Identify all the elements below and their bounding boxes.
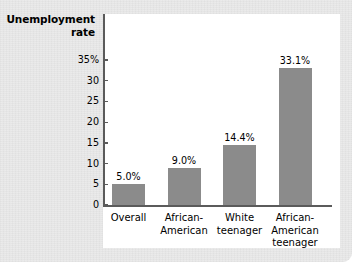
x-axis-category-label-line: Overall: [101, 212, 156, 225]
x-axis-line: [103, 205, 332, 207]
y-axis-title: Unemployment rate: [2, 13, 95, 38]
x-axis-category-label-line: American: [157, 225, 212, 238]
y-axis-tick: [103, 59, 108, 60]
x-axis-category-label-line: African-: [268, 212, 323, 225]
y-axis-tick-label: 10: [41, 159, 99, 169]
y-axis-tick: [103, 142, 108, 143]
y-axis-tick: [103, 204, 108, 205]
x-axis-category-label-line: African-: [157, 212, 212, 225]
bar-value-label: 9.0%: [157, 155, 212, 166]
bar-value-label: 14.4%: [212, 132, 267, 143]
bar-value-label: 33.1%: [268, 55, 323, 66]
y-axis-tick-labels: 05101520253035%: [39, 14, 99, 206]
x-axis-category-label-line: teenager: [268, 237, 323, 250]
y-axis-title-line-1: Unemployment: [2, 13, 95, 26]
y-axis-tick-label: 0: [41, 200, 99, 210]
x-axis-category-label: Overall: [101, 212, 156, 225]
y-axis-tick-label: 15: [41, 138, 99, 148]
x-axis-category-label-line: White: [212, 212, 267, 225]
y-axis-tick: [103, 184, 108, 185]
bar: [168, 168, 201, 205]
x-axis-category-label: African-American: [157, 212, 212, 237]
bar: [112, 184, 145, 205]
y-axis-tick-label: 5: [41, 179, 99, 189]
y-axis-tick-label: 30: [41, 76, 99, 86]
chart-figure: Unemployment rate 05101520253035% 5.0%9.…: [0, 0, 352, 262]
plot-area: 05101520253035% 5.0%9.0%14.4%33.1% Overa…: [103, 14, 340, 248]
y-axis-tick-label: 25: [41, 96, 99, 106]
y-axis-title-line-2: rate: [2, 26, 95, 39]
y-axis-tick: [103, 101, 108, 102]
bar: [223, 145, 256, 205]
x-axis-category-label: African-Americanteenager: [268, 212, 323, 250]
x-axis-category-label-line: American: [268, 225, 323, 238]
y-axis-tick: [103, 122, 108, 123]
bar-value-label: 5.0%: [101, 171, 156, 182]
y-axis-tick-label: 35%: [41, 55, 99, 65]
y-axis-tick: [103, 163, 108, 164]
y-axis-tick-label: 20: [41, 117, 99, 127]
x-axis-category-label: Whiteteenager: [212, 212, 267, 237]
bar: [279, 68, 312, 205]
y-axis-tick: [103, 80, 108, 81]
x-axis-category-label-line: teenager: [212, 225, 267, 238]
